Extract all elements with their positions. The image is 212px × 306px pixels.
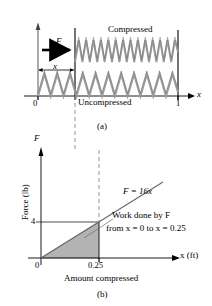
- label-force-symbol-b: F: [34, 133, 40, 143]
- figure-panel-b: [0, 0, 212, 306]
- label-equation: F = 16x: [123, 186, 152, 196]
- tick-x-025: 0.25: [88, 260, 103, 270]
- label-axis-x-a: x: [197, 89, 201, 99]
- label-force-a: F: [56, 36, 62, 46]
- panel-b-axes: [28, 147, 180, 265]
- label-x-axis-b: x (ft): [180, 250, 198, 260]
- label-compressed: Compressed: [108, 24, 153, 34]
- annotation-work-line1: Work done by F: [112, 210, 170, 220]
- tick-right-a: 1: [176, 98, 180, 108]
- tick-origin-a: 0: [33, 98, 37, 108]
- label-amount-compressed: Amount compressed: [64, 273, 138, 283]
- label-displacement-x: x: [53, 61, 57, 71]
- tick-y-4: 4: [31, 216, 35, 226]
- caption-panel-b: (b): [97, 289, 108, 299]
- label-y-axis-b: Force (lb): [20, 184, 30, 220]
- annotation-work-line2: from x = 0 to x = 0.25: [106, 223, 186, 233]
- caption-panel-a: (a): [97, 121, 107, 131]
- tick-origin-b: 0: [35, 260, 39, 270]
- label-uncompressed: Uncompressed: [78, 97, 132, 107]
